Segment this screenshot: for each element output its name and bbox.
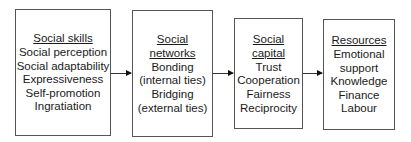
box-title: Social skills <box>33 31 92 45</box>
box-social-networks: Social networks Bonding (internal ties) … <box>132 10 213 137</box>
box-item: (internal ties) <box>139 74 205 88</box>
box-resources: Resources Emotional support Knowledge Fi… <box>323 19 395 130</box>
box-title: Social capital <box>235 32 302 60</box>
box-item: Fairness <box>246 88 290 102</box>
box-item: Social perception <box>19 46 107 60</box>
box-social-capital: Social capital Trust Cooperation Fairnes… <box>234 18 303 129</box>
box-item: (external ties) <box>138 102 208 116</box>
box-item: Self-promotion <box>26 87 101 101</box>
box-social-skills: Social skills Social perception Social a… <box>15 9 111 136</box>
box-item: Trust <box>256 61 282 75</box>
box-item: Bonding <box>151 61 193 75</box>
box-item: Cooperation <box>237 74 300 88</box>
box-item: support <box>340 62 378 76</box>
arrow-skills-to-networks <box>111 73 131 74</box>
box-item: Labour <box>341 102 377 116</box>
box-item: Ingratiation <box>35 100 92 114</box>
box-title: Social networks <box>133 32 212 60</box>
box-item: Knowledge <box>331 75 388 89</box>
box-item: Bridging <box>151 88 193 102</box>
box-item: Expressiveness <box>23 73 104 87</box>
box-title: Resources <box>332 33 387 47</box>
box-item: Social adaptability <box>17 60 110 74</box>
arrow-networks-to-capital <box>213 73 233 74</box>
box-item: Emotional <box>333 48 384 62</box>
box-item: Reciprocity <box>240 102 297 116</box>
arrow-capital-to-resources <box>303 73 322 74</box>
box-item: Finance <box>339 89 380 103</box>
